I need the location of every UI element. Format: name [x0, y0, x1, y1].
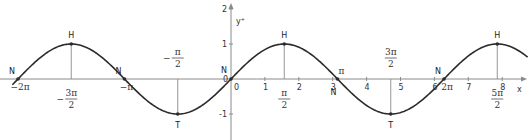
pi-label: π: [339, 66, 345, 76]
point-t: [176, 112, 180, 116]
x-axis-label: x: [517, 85, 522, 94]
pi-label: π2−: [163, 47, 184, 69]
svg-text:π: π: [175, 47, 181, 57]
pi-label: 3π2−: [56, 88, 77, 110]
point-label: H: [281, 31, 287, 40]
point-n: [336, 77, 340, 81]
x-tick-label: 2: [297, 83, 302, 92]
y-tick-label: 1: [222, 40, 227, 49]
point-label: N: [331, 88, 337, 97]
point-label: T: [387, 121, 393, 130]
y-axis-label: y+: [236, 16, 245, 26]
svg-text:2: 2: [388, 59, 394, 69]
sine-graph: x y+ 01234567821-10 NHNTNHNTNH −2π3π2−−π…: [0, 0, 529, 140]
point-label: N: [435, 67, 441, 76]
svg-text:−: −: [56, 94, 64, 104]
x-tick-label: 0: [234, 83, 239, 92]
x-axis-arrow-icon: [521, 77, 527, 82]
point-n: [123, 77, 127, 81]
svg-text:2: 2: [494, 100, 500, 110]
pi-label: 5π2: [491, 88, 503, 110]
pi-label: −2π: [10, 82, 29, 92]
svg-text:2: 2: [175, 59, 181, 69]
point-h: [495, 42, 499, 46]
point-label: H: [68, 31, 74, 40]
svg-text:3π: 3π: [65, 88, 77, 98]
y-tick-label: 2: [222, 5, 227, 14]
point-n: [442, 77, 446, 81]
pi-label: 2π: [441, 82, 453, 92]
point-h: [282, 42, 286, 46]
pi-label: −π: [120, 82, 134, 92]
svg-text:2: 2: [281, 100, 287, 110]
svg-text:2: 2: [68, 100, 74, 110]
point-h: [69, 42, 73, 46]
point-t: [389, 112, 393, 116]
point-label: N: [221, 66, 227, 75]
x-tick-label: 7: [466, 83, 471, 92]
svg-text:π: π: [281, 88, 287, 98]
svg-text:5π: 5π: [491, 88, 503, 98]
point-n: [16, 77, 20, 81]
point-n: [229, 77, 233, 81]
point-label: H: [494, 31, 500, 40]
svg-text:−: −: [163, 53, 171, 63]
y-tick-label: -1: [219, 110, 227, 119]
point-label: T: [174, 121, 180, 130]
axes: x y+: [0, 3, 527, 140]
point-label: N: [116, 67, 122, 76]
pi-label: π2: [278, 88, 290, 110]
point-label: N: [9, 67, 15, 76]
svg-text:3π: 3π: [385, 47, 397, 57]
pi-label: 3π2: [385, 47, 397, 69]
y-axis-arrow-icon: [229, 3, 234, 9]
x-tick-label: 5: [399, 83, 404, 92]
x-tick-label: 1: [263, 83, 268, 92]
x-tick-label: 4: [365, 83, 370, 92]
